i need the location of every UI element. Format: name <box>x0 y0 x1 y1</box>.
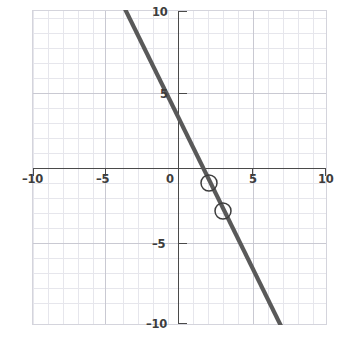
y-tick-label-neg5: –5 <box>152 237 165 251</box>
y-tick-label-neg10: –10 <box>146 317 167 331</box>
y-tick-label-5: 5 <box>160 87 168 101</box>
y-tick-label-10: 10 <box>152 5 168 19</box>
coordinate-plane-chart: –10 –5 0 5 10 10 5 –5 –10 <box>0 0 349 344</box>
x-tick-label-zero: 0 <box>166 172 174 186</box>
x-tick-label-10: 10 <box>318 172 334 186</box>
x-tick-label-neg5: –5 <box>96 172 109 186</box>
x-tick-label-neg10: –10 <box>22 172 43 186</box>
x-tick-label-5: 5 <box>249 172 257 186</box>
chart-canvas <box>0 0 349 344</box>
